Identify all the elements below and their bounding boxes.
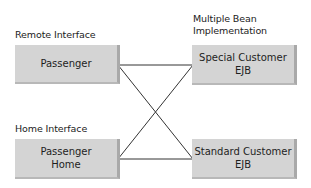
multiple-bean-label-line1: Multiple Bean — [193, 13, 257, 25]
standard-customer-line1: Standard Customer — [194, 145, 291, 158]
standard-customer-line2: EJB — [235, 158, 251, 171]
passenger-home-line1: Passenger — [40, 145, 91, 158]
remote-interface-label: Remote Interface — [15, 29, 96, 41]
passenger-box-text: Passenger — [40, 57, 91, 70]
special-customer-ejb-box: Special Customer EJB — [192, 45, 297, 85]
multiple-bean-label-line2: Implementation — [193, 25, 267, 37]
standard-customer-ejb-box: Standard Customer EJB — [192, 139, 297, 179]
home-interface-label: Home Interface — [15, 123, 87, 135]
passenger-box: Passenger — [15, 45, 120, 84]
special-customer-line1: Special Customer — [199, 51, 287, 64]
special-customer-line2: EJB — [235, 64, 251, 77]
passenger-home-line2: Home — [51, 158, 81, 171]
passenger-home-box: Passenger Home — [15, 139, 120, 179]
